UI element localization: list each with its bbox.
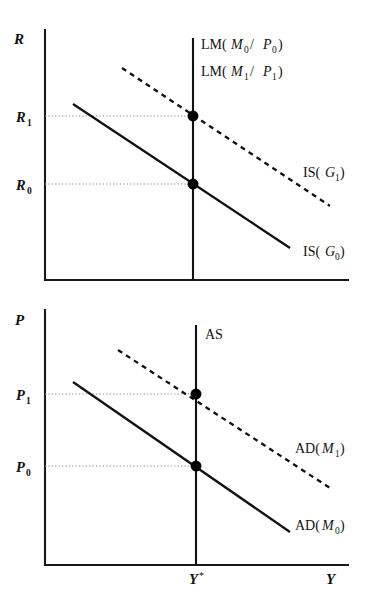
x-tick-label-y-star-mark: * (199, 570, 204, 581)
lm-label-m0-p0-sub2: 0 (272, 45, 277, 55)
tick-label-r1-sub: 1 (27, 118, 32, 128)
tick-label-p0-sub: 0 (26, 468, 31, 478)
ad-m1-label-var: M (321, 441, 335, 456)
y-axis-label-bottom: P (15, 312, 25, 328)
lm-label-m0-p0: LM( M 0 / P 0 ) (201, 37, 283, 55)
tick-label-p1-sub: 1 (26, 396, 31, 406)
tick-label-p1-base: P (16, 387, 25, 403)
lm-label-m1-p1-var1: M (230, 64, 244, 79)
ad-m0-label-suffix: ) (340, 518, 345, 534)
lm-label-m1-p1-sep: / (250, 64, 254, 79)
equilibrium-dot-upper-bottom (191, 389, 201, 399)
ad-m0-label-var: M (321, 518, 335, 533)
lm-label-m0-p0-var1: M (230, 37, 244, 52)
ad-m1-label-prefix: AD( (295, 441, 320, 457)
is-g0-label-suffix: ) (340, 244, 345, 260)
lm-label-m0-p0-suffix: ) (278, 37, 283, 53)
ad-m0-label: AD( M 0 ) (295, 518, 345, 536)
tick-label-p0: P 0 (16, 459, 31, 478)
equilibrium-dot-lower-bottom (191, 461, 201, 471)
lm-label-m0-p0-prefix: LM( (201, 37, 227, 53)
lm-label-m1-p1-prefix: LM( (201, 64, 227, 80)
is-lm-panel: R R 1 R 0 LM( M 0 / P 0 ) LM( M 1 / P 1 … (0, 0, 368, 305)
is-g0-label-var: G (325, 244, 335, 259)
tick-label-r0: R 0 (15, 177, 32, 196)
is-g1-label: IS( G 1 ) (303, 165, 345, 183)
ad-m1-label-suffix: ) (340, 441, 345, 457)
tick-label-p1: P 1 (16, 387, 31, 406)
tick-label-r1: R 1 (15, 109, 32, 128)
lm-label-m1-p1-sub1: 1 (244, 72, 249, 82)
as-label: AS (205, 327, 223, 342)
ad-as-panel: P P 1 P 0 AS AD( M 1 ) AD( M 0 ) Y * (0, 305, 368, 610)
x-axis-label-bottom: Y (326, 571, 337, 587)
is-g1-curve (122, 68, 330, 206)
lm-label-m1-p1: LM( M 1 / P 1 ) (201, 64, 283, 82)
is-g0-label-prefix: IS( (303, 244, 320, 260)
lm-label-m1-p1-sub2: 1 (272, 72, 277, 82)
lm-label-m0-p0-var2: P (262, 37, 272, 52)
lm-label-m0-p0-sep: / (250, 37, 254, 52)
is-g0-curve (73, 104, 290, 248)
ad-m1-label: AD( M 1 ) (295, 441, 345, 459)
tick-label-r1-base: R (15, 109, 26, 125)
ad-m0-curve (73, 382, 290, 532)
tick-label-r0-base: R (15, 177, 26, 193)
x-tick-label-y-star-base: Y (189, 571, 199, 587)
ad-m0-label-prefix: AD( (295, 518, 320, 534)
is-g1-label-prefix: IS( (303, 165, 320, 181)
is-g1-label-suffix: ) (340, 165, 345, 181)
tick-label-p0-base: P (16, 459, 25, 475)
economics-figure: R R 1 R 0 LM( M 0 / P 0 ) LM( M 1 / P 1 … (0, 0, 368, 610)
equilibrium-dot-upper-top (188, 111, 198, 121)
tick-label-r0-sub: 0 (27, 186, 32, 196)
ad-m1-curve (118, 350, 330, 488)
y-axis-label-top: R (13, 31, 24, 47)
x-tick-label-y-star: Y * (189, 570, 204, 587)
lm-label-m1-p1-var2: P (262, 64, 272, 79)
lm-label-m0-p0-sub1: 0 (244, 45, 249, 55)
lm-label-m1-p1-suffix: ) (278, 64, 283, 80)
is-g1-label-var: G (325, 165, 335, 180)
is-g0-label: IS( G 0 ) (303, 244, 345, 262)
equilibrium-dot-lower-top (188, 179, 198, 189)
